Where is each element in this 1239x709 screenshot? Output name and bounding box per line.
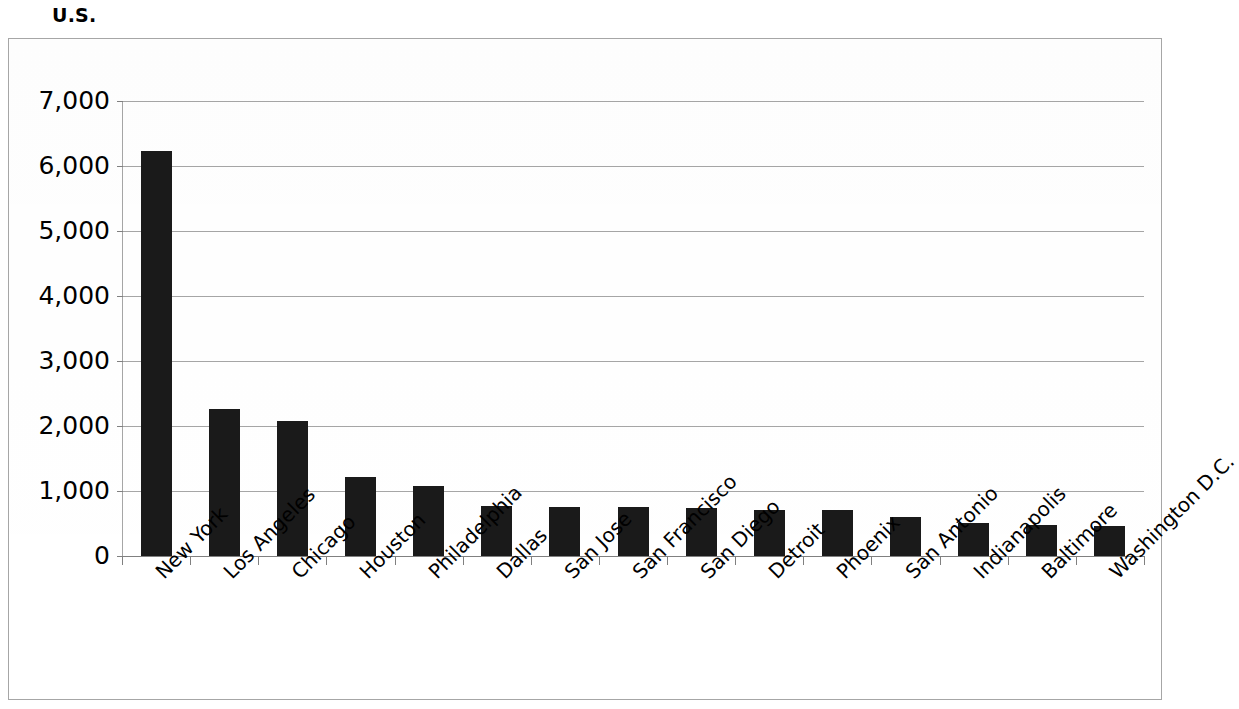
y-axis-tick-mark bbox=[117, 296, 123, 297]
y-axis-tick-label: 6,000 bbox=[16, 153, 110, 178]
y-axis-tick-label: 1,000 bbox=[16, 478, 110, 503]
y-axis-tick-mark bbox=[117, 426, 123, 427]
y-axis-tick-mark bbox=[117, 491, 123, 492]
y-axis-tick-mark bbox=[117, 231, 123, 232]
y-axis-tick-label: 5,000 bbox=[16, 218, 110, 243]
category-axis-tick-labels: New YorkLos AngelesChicagoHoustonPhilade… bbox=[122, 560, 1144, 709]
gridline bbox=[122, 166, 1144, 167]
chart-title: U.S. bbox=[52, 2, 96, 28]
chart-frame: 7,0006,0005,0004,0003,0002,0001,0000 New… bbox=[8, 38, 1162, 700]
y-axis-tick-label: 4,000 bbox=[16, 283, 110, 308]
y-axis-tick-mark bbox=[117, 101, 123, 102]
y-axis-tick-label: 3,000 bbox=[16, 348, 110, 373]
y-axis-tick-mark bbox=[117, 361, 123, 362]
gridline bbox=[122, 361, 1144, 362]
y-axis-tick-mark bbox=[117, 166, 123, 167]
y-axis-tick-label: 2,000 bbox=[16, 413, 110, 438]
bar bbox=[141, 151, 172, 556]
y-axis-tick-label: 7,000 bbox=[16, 88, 110, 113]
gridline bbox=[122, 296, 1144, 297]
y-axis-tick-label: 0 bbox=[16, 543, 110, 568]
y-axis-tick-labels: 7,0006,0005,0004,0003,0002,0001,0000 bbox=[9, 101, 110, 557]
gridline bbox=[122, 231, 1144, 232]
gridline bbox=[122, 426, 1144, 427]
gridline bbox=[122, 101, 1144, 102]
